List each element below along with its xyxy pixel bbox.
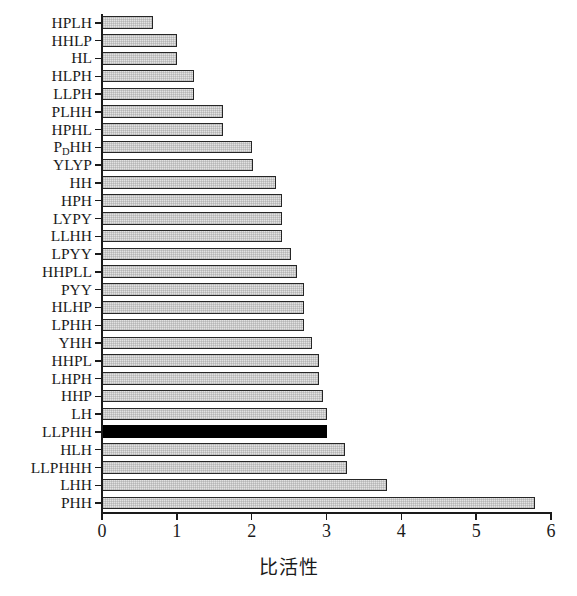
bar-HPLH xyxy=(102,16,153,29)
y-axis-tick xyxy=(95,164,102,165)
bar-HLPH xyxy=(102,70,194,83)
y-axis-tick xyxy=(95,431,102,432)
x-axis-tick xyxy=(101,513,102,520)
y-axis-tick xyxy=(95,342,102,343)
bar-chart: 比活性 HPLHHHLPHLHLPHLLPHPLHHHPHLPDHHYLYPHH… xyxy=(0,0,577,596)
bar-HHP xyxy=(102,390,323,403)
y-axis-tick xyxy=(95,182,102,183)
bar-HLH xyxy=(102,443,345,456)
bar-row xyxy=(102,334,551,353)
y-axis-label-text: HPHL xyxy=(52,122,92,138)
bar-PDHH xyxy=(102,141,252,154)
bar-HHLP xyxy=(102,34,177,47)
y-axis-label-text: LHH xyxy=(60,477,92,493)
y-axis-tick xyxy=(95,129,102,130)
bar-row xyxy=(102,281,551,300)
y-axis-label-text: LLHH xyxy=(51,228,92,244)
y-axis-tick xyxy=(95,378,102,379)
y-axis-label-text: LH xyxy=(71,406,92,422)
y-axis-tick xyxy=(95,502,102,503)
y-axis-label-text: HHPL xyxy=(52,353,92,369)
y-axis-label-text: HL xyxy=(71,50,92,66)
y-axis-tick xyxy=(95,76,102,77)
bar-HLHP xyxy=(102,301,304,314)
y-axis-tick xyxy=(95,111,102,112)
x-axis-tick xyxy=(326,513,327,520)
x-axis-title: 比活性 xyxy=(0,552,577,579)
x-axis-tick-label: 3 xyxy=(307,521,347,541)
y-axis-label-text: LLPH xyxy=(53,86,92,102)
y-axis-tick xyxy=(95,289,102,290)
bar-LPYY xyxy=(102,248,291,261)
bar-row xyxy=(102,156,551,175)
x-axis-tick-label: 1 xyxy=(157,521,197,541)
y-axis-tick xyxy=(95,325,102,326)
bar-row xyxy=(102,370,551,389)
bar-row xyxy=(102,103,551,122)
bar-HHPL xyxy=(102,354,319,367)
bar-HPH xyxy=(102,194,282,207)
bar-row xyxy=(102,316,551,335)
bar-YHH xyxy=(102,337,312,350)
y-axis-line xyxy=(101,14,103,513)
bar-row xyxy=(102,245,551,264)
y-axis-label-text: PYY xyxy=(61,282,92,298)
y-axis-label-text: LLPHHH xyxy=(31,460,92,476)
bar-row xyxy=(102,85,551,104)
bar-HH xyxy=(102,176,276,189)
y-axis-tick xyxy=(95,413,102,414)
bar-LYPY xyxy=(102,212,282,225)
bar-row xyxy=(102,50,551,69)
bar-row xyxy=(102,14,551,33)
y-axis-label-text: PDHH xyxy=(53,139,92,157)
y-axis-tick xyxy=(95,40,102,41)
bar-row xyxy=(102,299,551,318)
bar-row xyxy=(102,174,551,193)
bar-HPHL xyxy=(102,123,223,136)
x-axis-tick xyxy=(251,513,252,520)
y-axis-tick xyxy=(95,236,102,237)
x-axis-tick-label: 2 xyxy=(232,521,272,541)
bar-YLYP xyxy=(102,159,253,172)
bar-LLPH xyxy=(102,88,194,101)
y-axis-tick xyxy=(95,360,102,361)
y-axis-label-text: LLPHH xyxy=(42,424,92,440)
y-axis-tick xyxy=(95,200,102,201)
x-axis-tick xyxy=(401,513,402,520)
x-axis-tick xyxy=(550,513,551,520)
y-axis-tick xyxy=(95,307,102,308)
y-axis-label-text: YHH xyxy=(58,335,92,351)
bar-row xyxy=(102,263,551,282)
y-axis-label-text: LPHH xyxy=(52,317,92,333)
bar-row xyxy=(102,423,551,442)
bar-row xyxy=(102,67,551,86)
bar-PHH xyxy=(102,497,535,510)
y-axis-label-text: HH xyxy=(70,175,92,191)
y-axis-label-text: HHPLL xyxy=(42,264,92,280)
x-axis-tick-label: 0 xyxy=(82,521,122,541)
y-axis-label-text: HLPH xyxy=(52,68,92,84)
y-axis-tick xyxy=(95,396,102,397)
y-axis-label-text: LHPH xyxy=(52,371,92,387)
y-axis-label-text: HLH xyxy=(60,442,92,458)
y-axis-tick xyxy=(95,58,102,59)
bar-LH xyxy=(102,408,327,421)
y-axis-tick xyxy=(95,253,102,254)
y-axis-tick xyxy=(95,271,102,272)
y-axis-tick xyxy=(95,22,102,23)
y-axis-tick xyxy=(95,449,102,450)
y-axis-label-text: HHP xyxy=(61,388,92,404)
x-axis-tick xyxy=(176,513,177,520)
bar-row xyxy=(102,352,551,371)
bar-LHPH xyxy=(102,372,319,385)
y-axis-tick xyxy=(95,467,102,468)
bar-HL xyxy=(102,52,177,65)
bar-PLHH xyxy=(102,105,223,118)
bar-row xyxy=(102,210,551,229)
bar-LLPHHH xyxy=(102,461,347,474)
y-axis-label-text: YLYP xyxy=(53,157,92,173)
y-axis-label-text: HPH xyxy=(61,193,92,209)
bar-row xyxy=(102,476,551,495)
bar-row xyxy=(102,227,551,246)
y-axis-label-text: LYPY xyxy=(53,211,92,227)
